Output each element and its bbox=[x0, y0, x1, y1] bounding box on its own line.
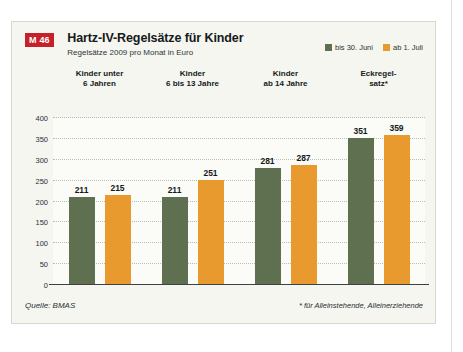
bar-value-label: 251 bbox=[203, 168, 217, 178]
legend-swatch-orange bbox=[383, 44, 390, 51]
category-label-row: Kinder unter6 JahrenKinder6 bis 13 Jahre… bbox=[53, 69, 425, 89]
chart-footer: Quelle: BMAS * für Alleinstehende, Allei… bbox=[25, 301, 423, 310]
bar-0-1[interactable]: 215 bbox=[105, 195, 131, 285]
bar-group-1: 211251 bbox=[146, 118, 239, 285]
bar-slot: 211 bbox=[69, 118, 95, 285]
footnote: * für Alleinstehende, Alleinerziehende bbox=[299, 301, 423, 310]
category-label-line: Kinder unter bbox=[53, 69, 146, 79]
y-axis-tick-label: 0 bbox=[44, 281, 48, 290]
legend-label: ab 1. Juli bbox=[393, 43, 423, 52]
y-axis-tick-label: 350 bbox=[35, 134, 48, 143]
category-label-line: 6 bis 13 Jahre bbox=[146, 79, 239, 89]
bar-slot: 215 bbox=[105, 118, 131, 285]
page-title: Hartz-IV-Regelsätze für Kinder bbox=[67, 31, 243, 45]
y-axis-tick-label: 50 bbox=[40, 260, 48, 269]
page-margin-rule bbox=[451, 0, 452, 352]
category-label-line: Kinder bbox=[146, 69, 239, 79]
bar-3-0[interactable]: 351 bbox=[348, 138, 374, 285]
bar-slot: 251 bbox=[198, 118, 224, 285]
chart-legend: bis 30. Juni ab 1. Juli bbox=[325, 43, 423, 52]
category-label-2: Kinderab 14 Jahre bbox=[239, 69, 332, 89]
bar-value-label: 211 bbox=[168, 185, 182, 195]
source-note: Quelle: BMAS bbox=[25, 301, 75, 310]
bar-value-label: 211 bbox=[75, 185, 89, 195]
bar-3-1[interactable]: 359 bbox=[384, 135, 410, 285]
bar-slot: 281 bbox=[255, 118, 281, 285]
bar-2-1[interactable]: 287 bbox=[291, 165, 317, 285]
y-axis-tick-label: 400 bbox=[35, 114, 48, 123]
chart-subtitle: Regelsätze 2009 pro Monat in Euro bbox=[67, 47, 243, 58]
category-label-3: Eckregel-satz* bbox=[332, 69, 425, 89]
plot-area: 050100150200250300350400 211215211251281… bbox=[53, 118, 425, 285]
bar-slot: 359 bbox=[384, 118, 410, 285]
category-label-0: Kinder unter6 Jahren bbox=[53, 69, 146, 89]
category-label-line: Eckregel- bbox=[332, 69, 425, 79]
category-label-line: satz* bbox=[332, 79, 425, 89]
bar-value-label: 287 bbox=[296, 153, 310, 163]
y-axis-tick-label: 100 bbox=[35, 239, 48, 248]
bar-2-0[interactable]: 281 bbox=[255, 168, 281, 285]
legend-item-bis-30-juni: bis 30. Juni bbox=[325, 43, 373, 52]
bar-groups: 211215211251281287351359 bbox=[53, 118, 425, 285]
bar-slot: 211 bbox=[162, 118, 188, 285]
legend-swatch-green bbox=[325, 44, 332, 51]
bar-group-2: 281287 bbox=[239, 118, 332, 285]
y-axis-tick-label: 150 bbox=[35, 218, 48, 227]
title-block: Hartz-IV-Regelsätze für Kinder Regelsätz… bbox=[67, 31, 243, 58]
bar-0-0[interactable]: 211 bbox=[69, 197, 95, 285]
category-label-line: 6 Jahren bbox=[53, 79, 146, 89]
category-label-line: ab 14 Jahre bbox=[239, 79, 332, 89]
category-label-1: Kinder6 bis 13 Jahre bbox=[146, 69, 239, 89]
y-axis-tick-label: 200 bbox=[35, 197, 48, 206]
bar-slot: 351 bbox=[348, 118, 374, 285]
y-axis-tick-label: 250 bbox=[35, 176, 48, 185]
bar-value-label: 351 bbox=[353, 126, 367, 136]
bar-value-label: 215 bbox=[110, 183, 124, 193]
legend-label: bis 30. Juni bbox=[335, 43, 373, 52]
bar-value-label: 281 bbox=[260, 156, 274, 166]
bar-slot: 287 bbox=[291, 118, 317, 285]
x-axis-line bbox=[49, 284, 429, 285]
bar-1-0[interactable]: 211 bbox=[162, 197, 188, 285]
bar-1-1[interactable]: 251 bbox=[198, 180, 224, 285]
bar-group-0: 211215 bbox=[53, 118, 146, 285]
module-badge: M 46 bbox=[25, 33, 54, 47]
legend-item-ab-1-juli: ab 1. Juli bbox=[383, 43, 423, 52]
bar-group-3: 351359 bbox=[332, 118, 425, 285]
bar-value-label: 359 bbox=[389, 123, 403, 133]
chart-card: M 46 Hartz-IV-Regelsätze für Kinder Rege… bbox=[11, 21, 436, 324]
category-label-line: Kinder bbox=[239, 69, 332, 79]
y-axis-tick-label: 300 bbox=[35, 155, 48, 164]
